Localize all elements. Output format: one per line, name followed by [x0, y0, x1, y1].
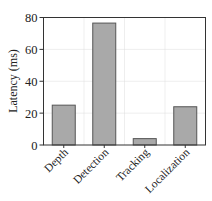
y-tick-label: 0: [31, 139, 37, 153]
y-tick-label: 40: [25, 75, 38, 89]
x-tick-label: Detection: [71, 146, 111, 186]
bar-detection: [93, 23, 116, 145]
x-axis: DepthDetectionTrackingLocalization: [42, 145, 192, 195]
bar-localization: [174, 107, 197, 145]
y-tick-label: 20: [25, 107, 38, 121]
x-tick-label: Localization: [143, 146, 192, 195]
x-tick-label: Tracking: [114, 146, 152, 184]
bar-chart: 020406080 DepthDetectionTrackingLocaliza…: [0, 0, 212, 201]
y-axis: 020406080: [25, 11, 44, 153]
y-tick-label: 60: [25, 43, 38, 57]
y-axis-label: Latency (ms): [6, 49, 20, 113]
bar-tracking: [133, 139, 156, 145]
bar-depth: [52, 105, 75, 145]
x-tick-label: Depth: [42, 146, 71, 175]
y-tick-label: 80: [25, 11, 38, 25]
